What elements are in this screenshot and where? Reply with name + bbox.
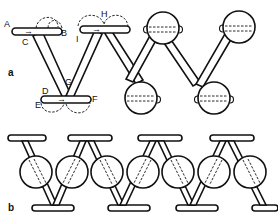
rod bbox=[68, 135, 112, 141]
sphere bbox=[198, 156, 230, 188]
label-d: D bbox=[42, 86, 49, 96]
rod-ef bbox=[41, 96, 91, 103]
field-loop bbox=[66, 103, 90, 113]
arrow-icon: → bbox=[57, 94, 66, 104]
rod bbox=[252, 205, 278, 211]
rod bbox=[176, 205, 218, 211]
field-loop bbox=[104, 15, 128, 26]
sphere bbox=[127, 156, 159, 188]
sphere bbox=[91, 156, 123, 188]
label-c: C bbox=[22, 37, 29, 47]
rod bbox=[138, 135, 182, 141]
sphere bbox=[56, 156, 88, 188]
panel-b: b bbox=[8, 135, 278, 213]
panel-label-a: a bbox=[8, 67, 14, 78]
rod-i bbox=[80, 26, 130, 33]
label-e: E bbox=[35, 100, 41, 110]
rod bbox=[108, 205, 150, 211]
label-i: I bbox=[76, 34, 79, 44]
label-f: F bbox=[92, 94, 98, 104]
sphere bbox=[234, 156, 266, 188]
label-h: H bbox=[101, 9, 108, 19]
rod bbox=[32, 205, 74, 211]
panel-a: → → → A B C D E F G H I a bbox=[4, 9, 255, 114]
field-loop bbox=[36, 17, 58, 28]
sphere bbox=[195, 82, 234, 114]
field-loop bbox=[48, 21, 62, 29]
label-g: G bbox=[65, 77, 72, 87]
panel-label-b: b bbox=[8, 202, 14, 213]
sphere bbox=[162, 156, 194, 188]
rod bbox=[210, 135, 254, 141]
label-a: A bbox=[4, 19, 10, 29]
arrow-icon: → bbox=[92, 24, 101, 34]
rod-ab bbox=[12, 28, 62, 35]
arrow-icon: → bbox=[24, 26, 33, 36]
label-b: B bbox=[61, 28, 67, 38]
field-loop bbox=[41, 103, 64, 112]
sphere bbox=[125, 82, 161, 114]
diagram: → → → A B C D E F G H I a bbox=[0, 0, 278, 222]
sphere bbox=[20, 156, 52, 188]
rod bbox=[8, 135, 46, 141]
